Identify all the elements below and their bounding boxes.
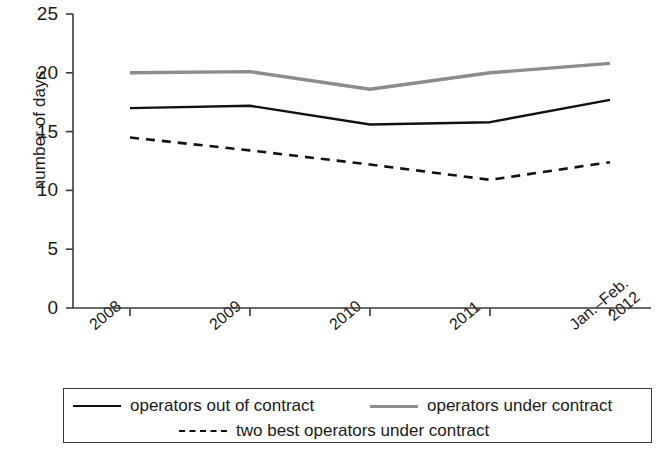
legend-swatch-solid-gray-icon <box>370 399 418 413</box>
series-lines <box>130 63 610 179</box>
line-chart: number of days 0510152025 20082009201020… <box>0 0 656 449</box>
axis-lines <box>73 14 651 308</box>
legend-item-operators-out-of-contract: operators out of contract <box>73 396 314 416</box>
series-line-2 <box>130 137 610 179</box>
legend-label-2: two best operators under contract <box>236 421 489 441</box>
series-line-0 <box>130 100 610 125</box>
legend-label-1: operators under contract <box>427 396 612 416</box>
legend-swatch-solid-black-icon <box>73 399 121 413</box>
legend: operators out of contract operators unde… <box>63 388 652 443</box>
legend-item-operators-under-contract: operators under contract <box>370 396 612 416</box>
series-line-1 <box>130 63 610 89</box>
legend-label-0: operators out of contract <box>130 396 314 416</box>
legend-swatch-dashed-icon <box>179 424 227 438</box>
plot-area <box>0 0 656 449</box>
axis-ticks <box>66 14 610 316</box>
legend-item-two-best-operators-under-contract: two best operators under contract <box>179 421 489 441</box>
